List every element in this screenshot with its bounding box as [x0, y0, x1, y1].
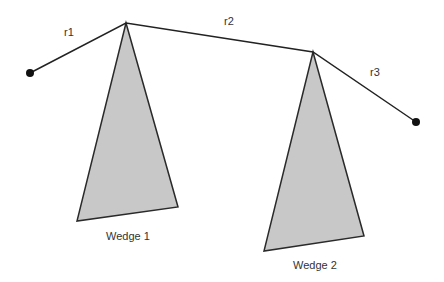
right-endpoint-dot — [412, 118, 420, 126]
segment-label-r2: r2 — [224, 15, 234, 27]
linkage-chain — [30, 23, 416, 122]
wedge-1-shape — [77, 23, 178, 221]
diagram-canvas — [0, 0, 444, 282]
segment-label-r1: r1 — [64, 26, 74, 38]
wedge-2-shape — [264, 52, 364, 251]
left-endpoint-dot — [26, 69, 34, 77]
wedge-1-label: Wedge 1 — [106, 230, 150, 242]
segment-label-r3: r3 — [370, 66, 380, 78]
wedge-2-label: Wedge 2 — [293, 259, 337, 271]
